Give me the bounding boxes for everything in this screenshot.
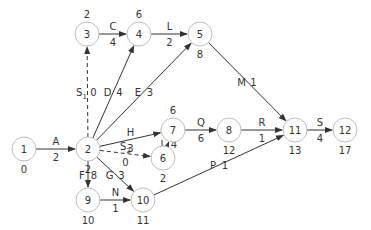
node-id: 4 <box>136 29 142 40</box>
edge-duration: 6 <box>198 133 204 144</box>
edge-duration: 0 <box>90 87 96 98</box>
edge-label: A <box>53 136 60 147</box>
network-diagram: A2S10C4D4L2E3M1H3S20I4Q6R1F8G3N1P1S4 102… <box>0 0 371 230</box>
node-10: 1011 <box>131 188 155 226</box>
node-time: 10 <box>82 215 95 226</box>
node-time: 11 <box>137 215 150 226</box>
edge-duration: 1 <box>222 160 228 171</box>
edges-layer: A2S10C4D4L2E3M1H3S20I4Q6R1F8G3N1P1S4 <box>36 21 332 214</box>
node-time: 8 <box>197 49 203 60</box>
edge-label: E <box>135 87 141 98</box>
node-8: 812 <box>217 118 241 156</box>
edge-label: H <box>127 127 135 138</box>
edge-label: M <box>237 77 246 88</box>
edge-a: A2 <box>36 136 75 163</box>
edge-label: G <box>106 170 114 181</box>
node-12: 1217 <box>333 118 357 156</box>
edge-l: L2 <box>151 21 187 48</box>
node-3: 32 <box>75 9 99 46</box>
edge-duration: 8 <box>91 170 97 181</box>
edge-c: C4 <box>99 21 126 48</box>
node-5: 58 <box>188 22 212 60</box>
node-id: 10 <box>137 195 150 206</box>
edge-label: R <box>259 117 266 128</box>
node-time: 13 <box>289 145 302 156</box>
nodes-layer: 10223246586276812910101111131217 <box>12 9 357 226</box>
edge-label: S <box>317 117 323 128</box>
edge-duration: 2 <box>166 37 172 48</box>
edge-duration: 3 <box>147 87 153 98</box>
edge-duration: 2 <box>53 152 59 163</box>
node-1: 10 <box>12 137 36 175</box>
node-time: 0 <box>21 164 27 175</box>
node-id: 1 <box>21 144 27 155</box>
edge-label: N <box>112 187 119 198</box>
edge-s: S4 <box>307 117 332 144</box>
node-7: 76 <box>161 105 185 142</box>
node-9: 910 <box>76 188 100 226</box>
edge-m: M1 <box>208 43 285 121</box>
edge-label: S1 <box>76 87 87 101</box>
edge-label: P <box>210 160 216 171</box>
node-id: 9 <box>85 195 91 206</box>
node-6: 62 <box>151 146 175 184</box>
node-id: 11 <box>289 125 302 136</box>
edge-duration: 1 <box>259 133 265 144</box>
node-time: 2 <box>84 9 90 20</box>
node-time: 2 <box>160 173 166 184</box>
node-id: 7 <box>170 125 176 136</box>
edge-label: Q <box>197 117 205 128</box>
node-11: 1113 <box>283 118 307 156</box>
edge-duration: 3 <box>118 170 124 181</box>
edge-n: N1 <box>100 187 130 214</box>
edge-d: D4 <box>93 46 134 138</box>
edge-label: D <box>104 87 112 98</box>
edge-duration: 1 <box>250 77 256 88</box>
edge-duration: 4 <box>317 133 323 144</box>
node-time: 6 <box>170 105 176 116</box>
node-id: 12 <box>339 125 352 136</box>
node-id: 3 <box>84 29 90 40</box>
edge-label: C <box>110 21 117 32</box>
edge-duration: 4 <box>116 87 122 98</box>
node-id: 5 <box>197 29 203 40</box>
edge-duration: 1 <box>112 203 118 214</box>
edge-label: L <box>167 21 173 32</box>
node-time: 17 <box>339 145 352 156</box>
edge-duration: 4 <box>110 37 116 48</box>
node-time: 2 <box>85 164 91 175</box>
edge-r: R1 <box>241 117 282 144</box>
node-4: 46 <box>127 9 151 46</box>
node-id: 6 <box>160 153 166 164</box>
node-id: 8 <box>226 125 232 136</box>
edge-duration: 0 <box>122 157 128 168</box>
node-time: 6 <box>136 9 142 20</box>
node-id: 2 <box>85 144 91 155</box>
edge-q: Q6 <box>185 117 216 144</box>
edge-s1: S10 <box>76 47 97 137</box>
node-time: 12 <box>223 145 236 156</box>
